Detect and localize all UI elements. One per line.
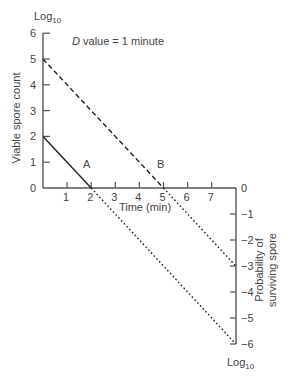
y-tick-left-label: 5 <box>30 53 36 65</box>
y-ticks-right: 0−1−2−3−4−5−6 <box>230 182 254 350</box>
y-axis-left-label: Viable spore count <box>10 73 22 164</box>
axes <box>43 33 236 344</box>
y-tick-left-label: 2 <box>30 130 36 142</box>
x-tick-label: 2 <box>87 191 93 203</box>
x-tick-label: 1 <box>63 191 69 203</box>
y-tick-right-label: −1 <box>241 208 254 220</box>
y-axis-right-label: Probability of surviving spore <box>253 233 278 307</box>
y-tick-right-label: 0 <box>241 182 247 194</box>
series-b-extrapolated <box>164 188 236 266</box>
x-tick-label: 3 <box>111 191 117 203</box>
d-value-annotation: D value = 1 minute <box>72 35 164 47</box>
y-tick-left-label: 4 <box>30 79 36 91</box>
y-tick-left-label: 0 <box>30 182 36 194</box>
y-axis-right-label-line1: Probability of <box>253 237 265 302</box>
y-tick-right-label: −5 <box>241 312 254 324</box>
y-tick-left-label: 1 <box>30 156 36 168</box>
x-tick-label: 6 <box>184 191 190 203</box>
series-b-measured <box>43 59 164 188</box>
series-label-a: A <box>83 158 91 170</box>
y-tick-right-label: −6 <box>241 338 254 350</box>
y-tick-left-label: 3 <box>30 105 36 117</box>
y-tick-left-label: 6 <box>30 27 36 39</box>
x-axis-label: Time (min) <box>119 201 171 213</box>
y-tick-right-label: −3 <box>241 260 254 272</box>
x-tick-label: 7 <box>208 191 214 203</box>
series-label-b: B <box>157 158 164 170</box>
y-axis-right-label-line2: surviving spore <box>266 233 278 307</box>
right-axis-unit: Log10 <box>227 356 255 371</box>
y-ticks-left: 0123456 <box>30 27 50 194</box>
x-ticks: 1234567 <box>63 182 214 203</box>
left-axis-unit: Log10 <box>34 10 62 25</box>
chart: Log10 D value = 1 minute Viable spore co… <box>0 0 295 382</box>
y-tick-right-label: −2 <box>241 234 254 246</box>
y-tick-right-label: −4 <box>241 286 254 298</box>
